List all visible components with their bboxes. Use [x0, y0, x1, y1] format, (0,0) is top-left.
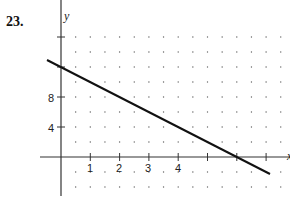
grid-dot: [236, 66, 237, 67]
grid-dot: [192, 66, 193, 67]
grid-dot: [90, 36, 91, 37]
grid-dot: [280, 51, 281, 52]
grid-dot: [251, 36, 252, 37]
coordinate-plane: 1 2 3 4 8 4 y x: [0, 0, 290, 202]
grid-dot: [207, 36, 208, 37]
grid-dot: [236, 141, 237, 142]
grid-dot: [207, 66, 208, 67]
grid-dot: [134, 51, 135, 52]
grid-dot: [192, 126, 193, 127]
grid-dot: [134, 36, 135, 37]
grid-dot: [75, 186, 76, 187]
grid-dot: [178, 111, 179, 112]
grid-dot: [75, 51, 76, 52]
grid-dot: [75, 96, 76, 97]
grid-dot: [104, 171, 105, 172]
grid-dot: [75, 36, 76, 37]
grid-dot: [104, 141, 105, 142]
grid-dot: [251, 66, 252, 67]
grid-dot: [192, 51, 193, 52]
grid-dot: [90, 111, 91, 112]
grid-dot: [178, 81, 179, 82]
grid-dot: [221, 111, 222, 112]
grid-dot: [90, 141, 91, 142]
grid-dot: [119, 51, 120, 52]
grid-dot: [236, 186, 237, 187]
grid-dot: [163, 171, 164, 172]
grid-dot: [251, 81, 252, 82]
grid-dot: [163, 36, 164, 37]
grid-dot: [221, 51, 222, 52]
grid-dot: [104, 186, 105, 187]
grid-dot: [236, 51, 237, 52]
grid-dot: [265, 186, 266, 187]
grid-dot: [163, 111, 164, 112]
grid-dot: [207, 96, 208, 97]
grid-dot: [236, 171, 237, 172]
grid-dot: [134, 186, 135, 187]
grid-dot: [134, 81, 135, 82]
grid-dot: [265, 51, 266, 52]
grid-dot: [251, 111, 252, 112]
grid-dot: [221, 36, 222, 37]
grid-dot: [236, 126, 237, 127]
grid-dot: [75, 111, 76, 112]
grid-dot: [163, 186, 164, 187]
grid-dot: [280, 111, 281, 112]
grid-dot: [280, 171, 281, 172]
grid-dot: [192, 171, 193, 172]
grid-dot: [280, 186, 281, 187]
x-tick-label-4: 4: [175, 162, 181, 174]
grid-dot: [148, 126, 149, 127]
grid-dot: [265, 126, 266, 127]
grid-dot: [104, 126, 105, 127]
x-tick-label-2: 2: [116, 162, 122, 174]
y-tick-label-8: 8: [48, 92, 54, 104]
grid-dot: [90, 96, 91, 97]
grid-dot: [221, 126, 222, 127]
grid-dot: [236, 36, 237, 37]
grid-dot: [207, 111, 208, 112]
grid-dot: [280, 126, 281, 127]
grid-dot: [192, 111, 193, 112]
grid-dot: [207, 186, 208, 187]
grid-dot: [104, 111, 105, 112]
grid-dot: [90, 66, 91, 67]
grid-dot: [119, 126, 120, 127]
grid-dot: [134, 111, 135, 112]
grid-dot: [163, 126, 164, 127]
grid-dot: [280, 96, 281, 97]
grid-dot: [134, 141, 135, 142]
grid-dot: [148, 186, 149, 187]
grid-dot: [119, 111, 120, 112]
grid-dot: [163, 51, 164, 52]
grid-dot: [221, 81, 222, 82]
grid-dot: [192, 141, 193, 142]
grid-dot: [148, 81, 149, 82]
grid-dot: [75, 81, 76, 82]
grid-dot: [163, 66, 164, 67]
grid-dot: [236, 96, 237, 97]
grid-dot: [280, 141, 281, 142]
grid-dot: [207, 126, 208, 127]
grid-dot: [104, 81, 105, 82]
grid-dot: [148, 96, 149, 97]
grid-dot: [104, 66, 105, 67]
grid-dot: [280, 66, 281, 67]
grid-dot: [119, 141, 120, 142]
grid-dot: [236, 111, 237, 112]
grid-dot: [221, 171, 222, 172]
grid-dot: [221, 186, 222, 187]
grid-dot: [265, 111, 266, 112]
grid-dot: [119, 81, 120, 82]
grid-dot: [104, 36, 105, 37]
grid-dot: [221, 141, 222, 142]
grid-dot: [90, 126, 91, 127]
grid-dot: [192, 96, 193, 97]
grid-dot: [75, 66, 76, 67]
grid-dot: [236, 81, 237, 82]
grid-dot: [163, 96, 164, 97]
grid-dot: [90, 186, 91, 187]
grid-dot: [148, 141, 149, 142]
grid-dot: [119, 186, 120, 187]
